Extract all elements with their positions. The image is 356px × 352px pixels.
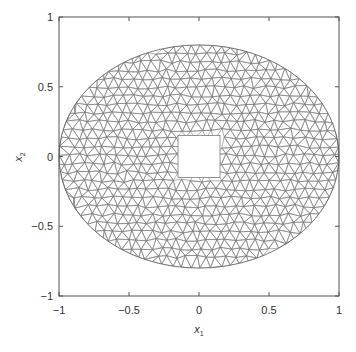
x-axis-label: x1 [194,323,203,337]
x-tick-label: 0.5 [261,304,276,316]
y-axis-label-sub: 2 [19,152,26,156]
y-tick-label: −0.5 [31,220,53,232]
x-tick-label: 0 [196,304,202,316]
y-tick-label: 1 [47,11,53,23]
x-tick-label: −0.5 [118,304,140,316]
y-tick-label: 0 [47,151,53,163]
y-tick-label: −1 [40,290,53,302]
x-tick-label: 1 [336,304,342,316]
mesh-plot [0,0,356,352]
y-axis-label-main: x [12,156,24,162]
y-tick-label: 0.5 [38,81,53,93]
y-axis-label: x2 [12,152,26,161]
x-tick-label: −1 [53,304,66,316]
square-hole [178,136,220,178]
x-axis-label-sub: 1 [200,330,204,337]
